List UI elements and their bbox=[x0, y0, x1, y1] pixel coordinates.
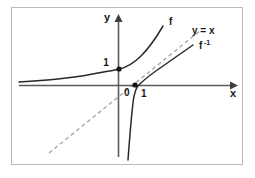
curve-label-f-inverse-exponent: -1 bbox=[204, 39, 210, 46]
point-marker-1-0 bbox=[132, 82, 137, 87]
x-axis-label: x bbox=[230, 87, 237, 99]
y-axis-label: y bbox=[104, 11, 111, 23]
y-axis-arrow-icon bbox=[115, 14, 123, 22]
graph-canvas: y x 0 1 1 f y = x f -1 bbox=[0, 0, 255, 178]
curve-label-f-inverse-base: f bbox=[199, 40, 203, 51]
origin-label: 0 bbox=[124, 87, 130, 98]
curve-label-f: f bbox=[169, 16, 173, 27]
inverse-function-figure: y x 0 1 1 f y = x f -1 bbox=[0, 0, 255, 178]
curve-f bbox=[19, 26, 163, 82]
x-tick-label-1: 1 bbox=[141, 88, 147, 99]
y-tick-label-1: 1 bbox=[103, 57, 109, 68]
point-marker-0-1 bbox=[116, 66, 121, 71]
curve-label-identity: y = x bbox=[192, 25, 215, 36]
